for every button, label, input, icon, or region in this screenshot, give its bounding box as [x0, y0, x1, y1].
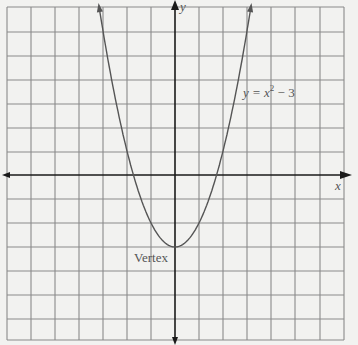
x-axis-arrow-left: [2, 172, 10, 178]
x-axis-label: x: [334, 178, 341, 193]
equation-rhs: − 3: [274, 85, 294, 100]
parabola-graph: x y y = x2 − 3 Vertex: [0, 0, 358, 345]
equation-label: y = x2 − 3: [241, 83, 295, 100]
x-axis-arrow-right: [340, 171, 352, 179]
y-axis-arrow-down: [172, 337, 178, 345]
y-axis-label: y: [178, 0, 186, 14]
curve-arrow-left: [97, 3, 103, 12]
y-axis-arrow-up: [171, 0, 179, 10]
equation-lhs: y = x: [241, 85, 270, 100]
vertex-label: Vertex: [134, 250, 168, 265]
curve-arrow-right: [247, 3, 253, 12]
